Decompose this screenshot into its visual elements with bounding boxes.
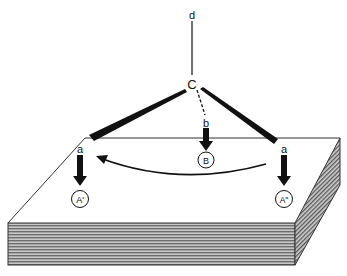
- bond-c-b-dashed: [197, 90, 205, 115]
- bond-c-a-right-wedge: [200, 87, 278, 144]
- slab-front-face: [8, 223, 295, 265]
- label-a-left: a: [77, 143, 84, 155]
- label-A-double-prime: A": [280, 195, 289, 205]
- arrow-b-to-B: [199, 128, 213, 151]
- diagram-canvas: d C b a a B A' A": [0, 0, 347, 276]
- slab-side-face: [295, 138, 340, 265]
- label-a-right: a: [281, 143, 288, 155]
- bond-c-a-left-wedge: [89, 89, 187, 141]
- label-C: C: [187, 77, 196, 92]
- arrow-a-left-to-A-prime: [73, 155, 87, 186]
- curved-migration-arrow: [100, 158, 266, 175]
- label-A-prime: A': [76, 195, 84, 205]
- label-B: B: [203, 156, 209, 166]
- label-b: b: [203, 117, 209, 129]
- arrow-a-right-to-A-double-prime: [277, 155, 291, 186]
- label-d: d: [189, 9, 195, 21]
- slab-left-edge: [8, 138, 85, 223]
